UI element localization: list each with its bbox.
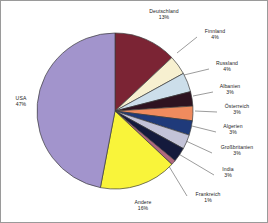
leader-line-algerien	[192, 126, 216, 132]
pie-label-albanien: Albanien3%	[213, 83, 247, 95]
pie-label-value-andere: 16%	[125, 205, 161, 211]
pie-slice-usa[interactable]	[37, 33, 115, 188]
leader-line-albanien	[193, 92, 213, 96]
pie-label-value-algerien: 3%	[216, 129, 250, 135]
pie-label-russland: Russland4%	[209, 60, 245, 72]
pie-label-usa: USA47%	[7, 95, 35, 107]
pie-label--sterreich: Österreich3%	[217, 103, 257, 115]
leader-line-russland	[184, 69, 209, 75]
pie-label-value-finnland: 4%	[197, 34, 233, 40]
pie-label-gro-britanien: Großbritanien3%	[212, 144, 262, 156]
pie-label-value-india: 3%	[214, 172, 242, 178]
leader-line-finnland	[177, 37, 197, 53]
leader-line-india	[177, 153, 214, 175]
leader-line-frankreich	[167, 163, 187, 196]
leader-line-gro-britanien	[186, 141, 212, 153]
pie-label-value-usa: 47%	[7, 101, 35, 107]
pie-label-andere: Andere16%	[125, 199, 161, 211]
pie-label-india: India3%	[214, 166, 242, 178]
pie-label-value-gro-britanien: 3%	[212, 150, 262, 156]
pie-label-value-albanien: 3%	[213, 89, 247, 95]
pie-label-value-deutschland: 13%	[141, 14, 187, 20]
pie-label-algerien: Algerien3%	[216, 123, 250, 135]
pie-slices-group	[37, 33, 193, 189]
pie-label-value-russland: 4%	[209, 66, 245, 72]
leader-line--sterreich	[195, 111, 217, 112]
pie-label-value-frankreich: 1%	[187, 197, 229, 203]
pie-label-deutschland: Deutschland13%	[141, 8, 187, 20]
pie-label-value--sterreich: 3%	[217, 109, 257, 115]
pie-label-frankreich: Frankreich1%	[187, 191, 229, 203]
pie-label-finnland: Finnland4%	[197, 28, 233, 40]
pie-chart-figure: Deutschland13%Finnland4%Russland4%Albani…	[0, 0, 268, 223]
